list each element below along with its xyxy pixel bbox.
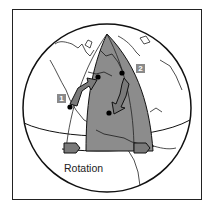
marker-label-1: 1 <box>57 94 66 103</box>
end-point-1 <box>95 74 100 79</box>
end-point-2 <box>106 110 111 115</box>
rotation-arrow-right <box>134 143 150 153</box>
start-point-2 <box>119 70 124 75</box>
rotation-label: Rotation <box>64 162 103 174</box>
start-point-1 <box>67 104 72 109</box>
rotation-arrow-left <box>64 143 80 153</box>
globe-diagram <box>0 0 214 210</box>
marker-label-2: 2 <box>136 64 145 73</box>
